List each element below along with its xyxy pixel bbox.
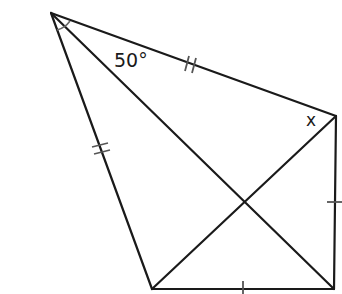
geometry-diagram: 50° x: [0, 0, 342, 294]
angle-label-50: 50°: [114, 49, 148, 71]
angle-label-x: x: [306, 110, 316, 130]
diagonal-ac: [51, 13, 334, 289]
